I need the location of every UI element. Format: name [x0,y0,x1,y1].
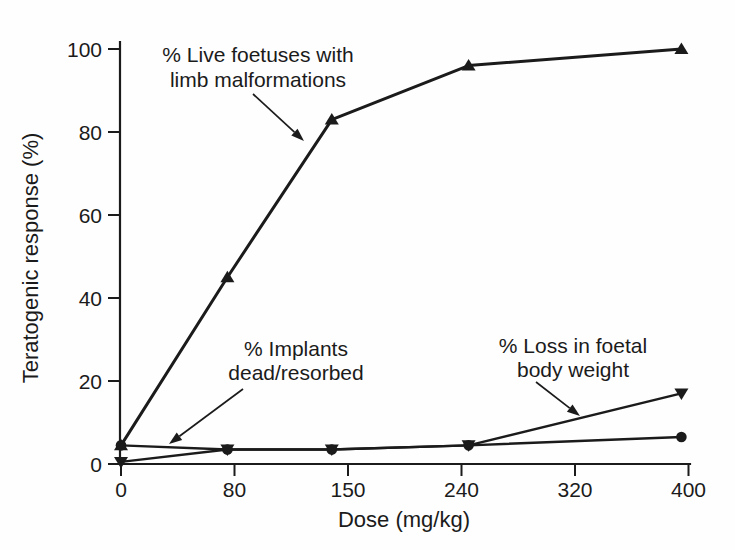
scanned-figure-page: 020406080100080150240320400Dose (mg/kg)T… [0,0,735,550]
marker-circle-implants-dead-resorbed [676,432,687,443]
x-tick-label: 0 [115,478,127,501]
annotation-text-implants-label: % Implants [244,337,348,360]
y-tick-label: 20 [79,370,102,393]
annotation-text-implants-label: dead/resorbed [228,361,363,384]
y-tick-label: 0 [90,453,102,476]
teratogenic-dose-response-chart: 020406080100080150240320400Dose (mg/kg)T… [0,0,735,550]
x-tick-label: 400 [671,478,706,501]
y-tick-label: 40 [79,287,102,310]
annotation-arrow-line-implants-label [179,389,243,436]
marker-triangle-down-foetal-weight-loss [114,457,128,469]
y-tick-label: 100 [67,38,102,61]
axes-frame [120,42,690,464]
annotation-arrowhead-weight-loss-label [567,404,580,416]
x-tick-label: 320 [557,478,592,501]
x-axis-title: Dose (mg/kg) [338,507,470,532]
annotation-arrow-line-limb-malformations-label [253,94,294,132]
y-tick-label: 80 [79,121,102,144]
x-tick-label: 240 [444,478,479,501]
x-tick-label: 150 [330,478,365,501]
annotation-text-limb-malformations-label: limb malformations [170,68,346,91]
annotation-text-weight-loss-label: body weight [517,358,629,381]
series-line-limb-malformations [121,49,681,445]
series-line-foetal-weight-loss [121,393,681,461]
annotation-arrowhead-implants-label [169,433,182,444]
y-tick-label: 60 [79,204,102,227]
annotation-text-weight-loss-label: % Loss in foetal [499,334,647,357]
marker-circle-implants-dead-resorbed [116,440,127,451]
y-axis-title: Teratogenic response (%) [18,133,43,384]
annotation-text-limb-malformations-label: % Live foetuses with [162,43,353,66]
x-tick-label: 80 [223,478,246,501]
annotation-arrow-line-weight-loss-label [536,382,570,408]
